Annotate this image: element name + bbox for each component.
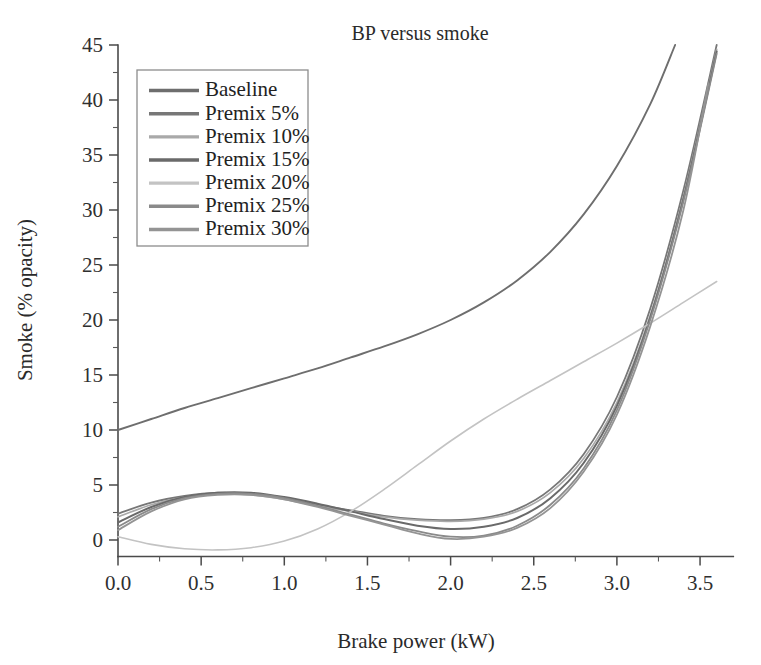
x-tick-label: 0.0 [105,571,131,595]
x-tick-label: 2.0 [437,571,463,595]
y-tick-label: 45 [82,33,103,57]
legend-label-premix-25: Premix 25% [205,193,309,217]
y-tick-label: 30 [82,198,103,222]
x-tick-label: 1.0 [271,571,297,595]
y-tick-label: 15 [82,363,103,387]
y-tick-label: 20 [82,308,103,332]
legend-label-premix-30: Premix 30% [205,216,309,240]
x-tick-label: 3.0 [604,571,630,595]
legend-label-premix-5: Premix 5% [205,101,299,125]
x-tick-label: 1.5 [354,571,380,595]
legend-label-premix-15: Premix 15% [205,147,309,171]
legend-label-premix-20: Premix 20% [205,170,309,194]
y-axis-label: Smoke (% opacity) [13,219,37,381]
y-tick-label: 40 [82,88,103,112]
y-tick-label: 10 [82,418,103,442]
chart-legend: BaselinePremix 5%Premix 10%Premix 15%Pre… [137,70,309,246]
x-tick-label: 3.5 [687,571,713,595]
series-line-premix-20 [118,282,717,550]
chart-title: BP versus smoke [351,22,488,44]
x-tick-label: 0.5 [188,571,214,595]
legend-label-premix-10: Premix 10% [205,124,309,148]
y-tick-label: 25 [82,253,103,277]
y-tick-label: 5 [93,473,104,497]
legend-label-baseline: Baseline [205,77,277,101]
x-tick-label: 2.5 [521,571,547,595]
x-axis-label: Brake power (kW) [337,629,494,653]
y-tick-label: 0 [93,528,104,552]
chart-figure: BP versus smoke Brake power (kW) Smoke (… [0,0,761,665]
y-tick-label: 35 [82,143,103,167]
bp-versus-smoke-chart: BP versus smoke Brake power (kW) Smoke (… [0,0,761,665]
